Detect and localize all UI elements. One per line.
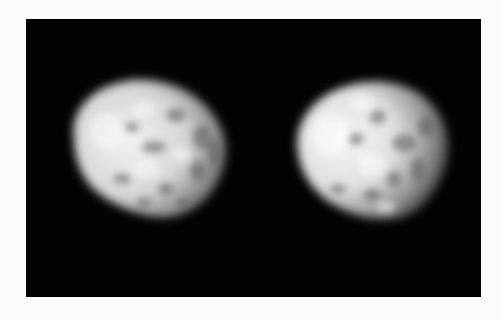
black-panel: [26, 19, 481, 297]
left-object: [74, 79, 226, 217]
image-canvas: [0, 0, 501, 320]
objects-illustration: [26, 19, 481, 297]
right-object: [297, 81, 448, 219]
